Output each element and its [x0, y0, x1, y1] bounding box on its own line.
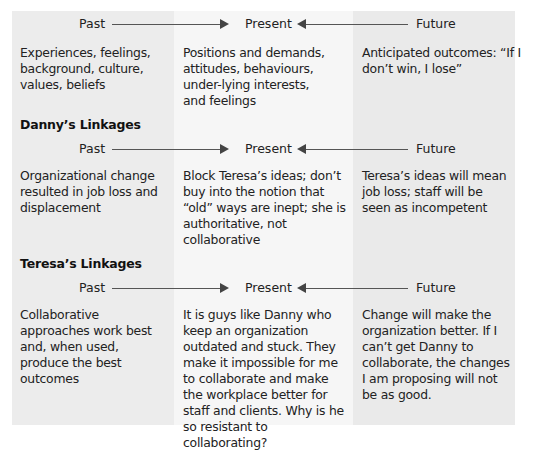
arrow-left-icon: [297, 144, 306, 154]
teresa-past-text: Collaborative approaches work best and, …: [20, 307, 165, 387]
teresa-linkages-heading: Teresa’s Linkages: [20, 256, 142, 271]
future-label: Future: [416, 140, 456, 158]
danny-past-text: Organizational change resulted in job lo…: [20, 168, 160, 216]
general-future-text: Anticipated outcomes: “If I don’t win, I…: [362, 45, 522, 77]
present-label: Present: [245, 140, 292, 158]
present-label: Present: [245, 279, 292, 297]
general-past-text: Experiences, feelings, background, cultu…: [20, 45, 170, 93]
past-to-present-line: [112, 149, 220, 150]
arrow-right-icon: [220, 144, 229, 154]
arrow-left-icon: [297, 19, 306, 29]
danny-present-text: Block Teresa’s ideas; don’t buy into the…: [183, 168, 351, 248]
past-label: Past: [79, 15, 105, 33]
present-label: Present: [245, 15, 292, 33]
past-label: Past: [79, 140, 105, 158]
timeline-row-teresa: Past Present Future: [0, 279, 545, 297]
future-label: Future: [416, 279, 456, 297]
arrow-right-icon: [220, 283, 229, 293]
past-label: Past: [79, 279, 105, 297]
past-to-present-line: [112, 24, 220, 25]
past-to-present-line: [112, 288, 220, 289]
arrow-right-icon: [220, 19, 229, 29]
timeline-row-general: Past Present Future: [0, 15, 545, 33]
future-to-present-line: [306, 24, 408, 25]
danny-linkages-heading: Danny’s Linkages: [20, 117, 141, 132]
general-present-text: Positions and demands, attitudes, behavi…: [183, 45, 333, 109]
future-to-present-line: [306, 149, 408, 150]
teresa-future-text: Change will make the organization better…: [362, 307, 512, 403]
future-label: Future: [416, 15, 456, 33]
arrow-left-icon: [297, 283, 306, 293]
danny-future-text: Teresa’s ideas will mean job loss; staff…: [362, 168, 512, 216]
timeline-row-danny: Past Present Future: [0, 140, 545, 158]
future-to-present-line: [306, 288, 408, 289]
teresa-present-text: It is guys like Danny who keep an organi…: [183, 307, 351, 451]
